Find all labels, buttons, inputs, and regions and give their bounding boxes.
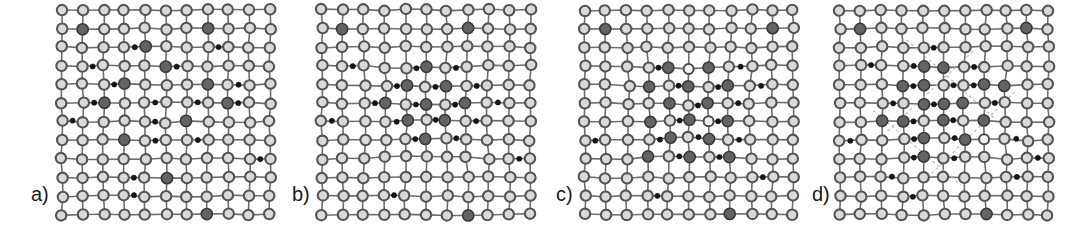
host-atom	[768, 171, 778, 181]
host-atom	[683, 23, 693, 33]
host-atom	[642, 23, 652, 33]
host-atom	[139, 172, 149, 182]
interstitial-atom	[716, 119, 721, 124]
host-atom	[622, 154, 632, 164]
host-atom	[245, 117, 255, 127]
interstitial-atom	[951, 118, 956, 123]
host-atom	[834, 60, 844, 70]
host-atom	[579, 24, 589, 34]
host-atom	[642, 191, 652, 201]
host-atom	[504, 80, 514, 90]
host-atom	[162, 80, 172, 90]
host-atom	[401, 99, 411, 109]
dopant-atom	[877, 115, 888, 126]
host-atom	[898, 98, 908, 108]
dopant-atom	[119, 134, 130, 145]
host-atom	[360, 98, 370, 108]
interstitial-atom	[657, 137, 662, 142]
host-atom	[662, 209, 672, 219]
host-atom	[938, 172, 948, 182]
host-atom	[644, 62, 654, 72]
host-atom	[1023, 136, 1033, 146]
dopant-atom	[119, 78, 130, 89]
interstitial-atom	[394, 119, 399, 124]
host-atom	[703, 82, 713, 92]
host-atom	[460, 152, 470, 162]
interstitial-atom	[952, 135, 957, 140]
host-atom	[56, 79, 66, 89]
host-atom	[99, 5, 109, 15]
host-atom	[899, 134, 909, 144]
host-atom	[1023, 209, 1033, 219]
host-atom	[140, 5, 150, 15]
dopant-atom	[160, 61, 171, 72]
host-atom	[482, 80, 492, 90]
interstitial-atom	[329, 118, 334, 123]
interstitial-atom	[677, 154, 682, 159]
host-atom	[855, 209, 865, 219]
host-atom	[747, 4, 757, 14]
host-atom	[400, 134, 410, 144]
interstitial-atom	[131, 175, 136, 180]
interstitial-atom	[90, 64, 95, 69]
interstitial-atom	[453, 102, 458, 107]
host-atom	[981, 173, 991, 183]
host-atom	[503, 116, 513, 126]
host-atom	[223, 153, 233, 163]
host-atom	[1002, 190, 1012, 200]
host-atom	[265, 78, 275, 88]
interstitial-atom	[433, 84, 438, 89]
dopant-atom	[938, 115, 949, 126]
host-atom	[337, 172, 347, 182]
host-atom	[441, 133, 451, 143]
interstitial-atom	[951, 83, 956, 88]
host-atom	[726, 6, 736, 16]
host-atom	[483, 171, 493, 181]
host-atom	[1043, 98, 1053, 108]
host-atom	[379, 63, 389, 73]
host-atom	[600, 42, 610, 52]
host-atom	[77, 135, 87, 145]
host-atom	[625, 81, 635, 91]
host-atom	[834, 43, 844, 53]
host-atom	[119, 42, 129, 52]
host-atom	[1022, 98, 1032, 108]
host-atom	[705, 42, 715, 52]
host-atom	[360, 116, 370, 126]
host-atom	[463, 192, 473, 202]
host-atom	[899, 152, 909, 162]
dopant-atom	[960, 134, 971, 145]
dopant-atom	[724, 151, 735, 162]
host-atom	[644, 134, 654, 144]
host-atom	[181, 5, 191, 15]
host-atom	[1044, 153, 1054, 163]
host-atom	[244, 191, 254, 201]
host-atom	[422, 151, 432, 161]
host-atom	[746, 154, 756, 164]
host-atom	[244, 61, 254, 71]
dopant-atom	[77, 24, 88, 35]
interstitial-atom	[391, 193, 396, 198]
host-atom	[317, 173, 327, 183]
host-atom	[896, 210, 906, 220]
host-atom	[600, 117, 610, 127]
host-atom	[960, 152, 970, 162]
host-atom	[358, 24, 368, 34]
host-atom	[766, 60, 776, 70]
host-atom	[1043, 79, 1053, 89]
host-atom	[766, 97, 776, 107]
host-atom	[265, 4, 275, 14]
interstitial-atom	[414, 66, 419, 71]
host-atom	[380, 43, 390, 53]
host-atom	[1002, 60, 1012, 70]
panel-label-b: b)	[292, 183, 310, 206]
host-atom	[77, 61, 87, 71]
host-atom	[463, 5, 473, 15]
host-atom	[58, 192, 68, 202]
host-atom	[382, 81, 392, 91]
host-atom	[600, 61, 610, 71]
host-atom	[379, 23, 389, 33]
host-atom	[441, 6, 451, 16]
host-atom	[266, 99, 276, 109]
host-atom	[856, 135, 866, 145]
